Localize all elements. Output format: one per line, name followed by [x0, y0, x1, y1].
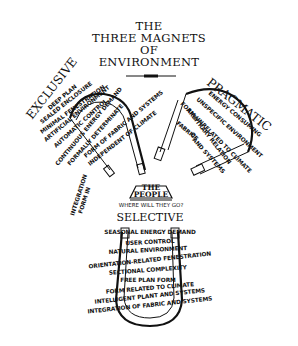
pragmatic-label: PRAGMATIC — [204, 75, 274, 134]
selective-attr: SEASONAL ENERGY DEMAND — [104, 229, 196, 235]
people-question: WHERE WILL THEY GO? — [119, 202, 184, 208]
pragmatic-magnet: PRAGMATIC ENERGY CONSUMING UNSPECIFIC EN… — [154, 75, 274, 175]
title-rule — [126, 75, 176, 78]
selective-attr: FREE PLAN FORM — [120, 277, 176, 283]
the-people-center: THE PEOPLE WHERE WILL THEY GO? — [119, 183, 184, 208]
pragmatic-attr: FABRIC — [175, 120, 196, 139]
three-magnets-diagram: EXCLUSIVE DEEP PLAN SEALED ENCLOSURE MIN… — [0, 0, 298, 346]
selective-label: SELECTIVE — [117, 211, 184, 224]
people-label-line-2: PEOPLE — [134, 190, 169, 199]
selective-magnet: SELECTIVE SEASONAL ENERGY DEMAND USER CO… — [87, 211, 212, 326]
